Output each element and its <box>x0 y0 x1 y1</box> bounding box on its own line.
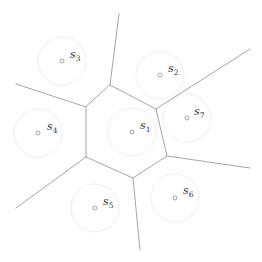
label-subscript: 3 <box>76 54 81 63</box>
label-subscript: 7 <box>200 111 205 120</box>
site-point-s7 <box>185 116 189 120</box>
site-point-s5 <box>93 206 97 210</box>
site-label-s7: s7 <box>194 105 205 120</box>
site-points <box>36 59 189 210</box>
site-label-s4: s4 <box>47 120 58 135</box>
site-label-s5: s5 <box>103 195 114 210</box>
site-label-s3: s3 <box>70 48 81 63</box>
label-subscript: 2 <box>174 68 179 77</box>
site-point-s2 <box>158 73 162 77</box>
label-subscript: 4 <box>53 126 58 135</box>
voronoi-diagram: s1s2s3s4s5s6s7 <box>0 0 262 262</box>
site-label-s1: s1 <box>140 119 150 134</box>
central-cell-boundary <box>86 85 167 178</box>
site-point-s1 <box>130 130 134 134</box>
voronoi-ray-v_top <box>110 14 119 85</box>
site-point-s3 <box>60 59 64 63</box>
label-subscript: 5 <box>109 201 114 210</box>
site-label-s6: s6 <box>183 184 194 199</box>
label-subscript: 6 <box>189 190 194 199</box>
voronoi-ray-v_right <box>167 156 250 168</box>
voronoi-ray-v_bottom_left <box>16 157 86 208</box>
site-point-s6 <box>173 196 177 200</box>
voronoi-ray-v_left <box>16 84 86 107</box>
label-subscript: 1 <box>146 125 151 134</box>
site-labels: s1s2s3s4s5s6s7 <box>47 48 205 210</box>
voronoi-ray-v_bottom <box>133 178 140 250</box>
site-label-s2: s2 <box>168 62 179 77</box>
site-point-s4 <box>36 131 40 135</box>
